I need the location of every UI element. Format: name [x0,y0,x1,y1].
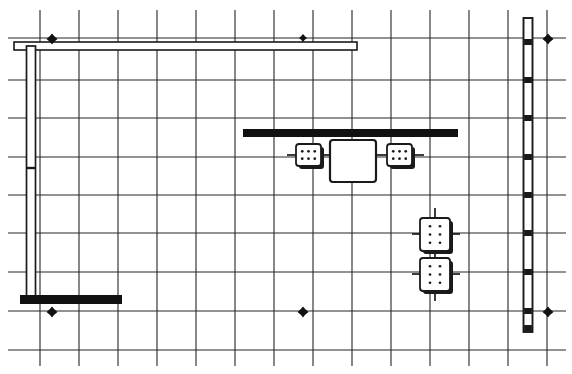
equipment-box-lower-dot-1-0 [429,273,432,276]
curtain-wall-mullion-4 [524,192,532,198]
curtain-wall-mullion-8 [524,325,532,331]
equipment-box-lower-dot-2-0 [429,281,432,284]
curtain-wall-mullion-0 [524,39,532,45]
equipment-box-upper-dot-2-1 [439,241,442,244]
junction-box-right-body [387,144,412,166]
junction-box-left-dot-1-0 [301,157,304,160]
junction-box-left-dot-0-2 [313,150,316,153]
floor-plan-drawing [0,0,572,374]
curtain-wall-mullion-3 [524,154,532,160]
curtain-wall-mullion-5 [524,230,532,236]
left-cavity-wall [27,46,36,300]
equipment-box-lower-dot-0-1 [439,265,442,268]
junction-box-right-dot-0-0 [392,150,395,153]
curtain-wall-mullion-2 [524,115,532,121]
equipment-box-lower-body [420,258,450,291]
equipment-box-lower-dot-0-0 [429,265,432,268]
junction-box-right-dot-0-1 [398,150,401,153]
junction-box-right-dot-1-1 [398,157,401,160]
junction-box-right[interactable] [387,144,415,169]
curtain-wall-mullion-7 [524,308,532,314]
drawing-background [0,0,572,374]
curtain-wall-mullion-1 [524,77,532,83]
lower-left-footing [20,295,122,304]
equipment-box-lower-dot-1-1 [439,273,442,276]
junction-box-left[interactable] [296,144,324,169]
top-cavity-wall [14,42,357,50]
equipment-box-upper[interactable] [420,218,453,254]
central-core[interactable] [330,140,376,182]
junction-box-left-dot-1-1 [307,157,310,160]
center-beam [243,129,458,137]
junction-box-left-dot-0-0 [301,150,304,153]
equipment-box-upper-dot-0-0 [429,225,432,228]
equipment-box-upper-dot-0-1 [439,225,442,228]
curtain-wall-mullion-6 [524,269,532,275]
equipment-box-upper-dot-1-0 [429,233,432,236]
floor-plan-canvas [0,0,572,374]
junction-box-right-dot-0-2 [404,150,407,153]
junction-box-left-dot-0-1 [307,150,310,153]
right-curtain-wall [524,18,533,332]
equipment-box-lower[interactable] [420,258,453,294]
junction-box-left-body [296,144,321,166]
equipment-box-upper-dot-2-0 [429,241,432,244]
core-layer [330,140,376,182]
junction-box-right-dot-1-2 [404,157,407,160]
junction-box-left-dot-1-2 [313,157,316,160]
equipment-box-lower-dot-2-1 [439,281,442,284]
equipment-box-upper-body [420,218,450,251]
equipment-box-upper-dot-1-1 [439,233,442,236]
junction-box-right-dot-1-0 [392,157,395,160]
